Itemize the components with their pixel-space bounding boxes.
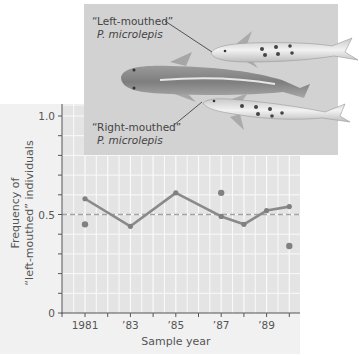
x-axis-title: Sample year bbox=[141, 335, 211, 348]
data-point bbox=[82, 221, 88, 227]
right-mouthed-species: P. microlepis bbox=[97, 134, 163, 146]
x-tick-label: 1981 bbox=[72, 319, 99, 331]
x-tick-label: ’87 bbox=[213, 319, 230, 331]
y-axis-title-line-2: “left-mouthed” individuals bbox=[23, 140, 36, 286]
data-point bbox=[286, 243, 292, 249]
y-tick-label: 1.0 bbox=[38, 110, 55, 122]
y-tick-label: 0 bbox=[48, 307, 55, 319]
figure: 1981’83’85’87’89 00.51.0 Sample year Fre… bbox=[0, 0, 359, 355]
data-point bbox=[128, 224, 133, 229]
data-point bbox=[218, 190, 224, 196]
data-point bbox=[173, 190, 178, 195]
fish-photo-inset: “Left-mouthed” P. microlepis “Right-mout… bbox=[84, 4, 358, 155]
x-tick-label: ’85 bbox=[167, 319, 184, 331]
x-tick-label: ’89 bbox=[258, 319, 275, 331]
left-mouthed-species: P. microlepis bbox=[97, 28, 163, 40]
data-point bbox=[219, 214, 224, 219]
data-point bbox=[82, 196, 87, 201]
right-mouthed-label: “Right-mouthed” bbox=[92, 121, 181, 133]
y-axis-title-line-1: Frequency of bbox=[9, 176, 22, 248]
left-mouthed-label: “Left-mouthed” bbox=[92, 15, 173, 27]
x-tick-label: ’83 bbox=[122, 319, 139, 331]
data-point bbox=[287, 204, 292, 209]
data-point bbox=[264, 208, 269, 213]
data-point bbox=[241, 222, 246, 227]
frequency-chart: 1981’83’85’87’89 00.51.0 Sample year Fre… bbox=[0, 0, 359, 355]
y-tick-label: 0.5 bbox=[38, 209, 55, 221]
